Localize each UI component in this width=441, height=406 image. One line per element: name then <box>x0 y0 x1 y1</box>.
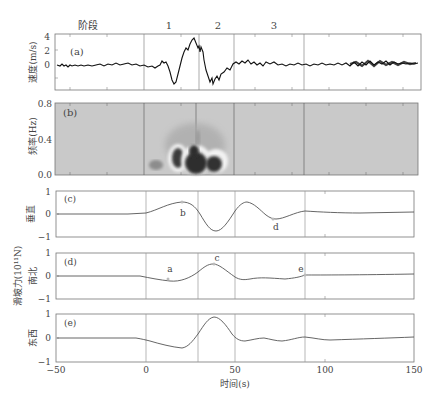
xtick-150: 150 <box>405 365 422 375</box>
panel-a-label: (a) <box>70 46 84 57</box>
ytick-b-04: 0.4 <box>38 135 53 145</box>
ylabel-b: 频率(Hz) <box>27 117 38 155</box>
ylabel-d: 南北 <box>27 267 38 285</box>
stage-1-label: 1 <box>166 20 172 31</box>
panel-b-spectrogram: (b) 0.8 0.4 0.0 频率(Hz) <box>27 99 418 180</box>
annotation-a: a <box>167 264 173 274</box>
marker-b <box>181 201 184 204</box>
ytick-a-2: 2 <box>44 46 50 56</box>
ytick-a-0: 0 <box>44 60 50 70</box>
panel-a-velocity: (a) 4 2 0 速度(m/s) <box>27 32 421 90</box>
stage-header-label: 阶段 <box>78 19 98 31</box>
xtick-50: 50 <box>229 365 241 375</box>
xlabel: 时间(s) <box>220 378 250 389</box>
ytick-d-0: 0 <box>45 271 51 281</box>
panel-d-label: (d) <box>64 257 77 267</box>
panel-b-label: (b) <box>63 107 77 118</box>
ytick-e-1: 1 <box>45 309 51 319</box>
ylabel-force: 滑坡力(10¹¹N) <box>12 246 23 307</box>
annotation-d: d <box>273 222 279 232</box>
ytick-c-1: 1 <box>45 187 51 197</box>
panel-e-label: (e) <box>64 318 76 328</box>
stage-3-label: 3 <box>271 20 277 31</box>
ytick-d-1: 1 <box>45 248 51 258</box>
marker-a <box>167 278 170 281</box>
ytick-b-00: 0.0 <box>38 170 53 180</box>
ylabel-a: 速度(m/s) <box>27 41 38 82</box>
annotation-e: e <box>298 264 303 274</box>
marker-d <box>272 218 275 221</box>
panel-d-north-south: a c e (d) 1 0 −1 南北 滑坡力(10¹¹N) <box>12 246 414 307</box>
ylabel-e: 东西 <box>27 329 38 347</box>
annotation-c: c <box>214 253 219 263</box>
figure: 阶段 1 2 3 (a) 4 2 0 速度(m/s) <box>0 0 441 406</box>
marker-e <box>304 274 307 277</box>
stage-2-label: 2 <box>215 20 221 31</box>
panel-c-label: (c) <box>64 194 76 204</box>
annotation-b: b <box>180 208 186 218</box>
ytick-b-08: 0.8 <box>38 99 53 109</box>
ytick-e-0: 0 <box>45 333 51 343</box>
panel-e-east-west: (e) 1 0 −1 东西 <box>27 309 414 367</box>
xtick-100: 100 <box>316 365 333 375</box>
ytick-c-0: 0 <box>45 209 51 219</box>
ylabel-c: 垂直 <box>25 205 36 223</box>
ytick-a-4: 4 <box>44 32 50 42</box>
ytick-c-m1: −1 <box>38 232 51 242</box>
xtick-m50: −50 <box>47 365 66 375</box>
stage-header: 阶段 1 2 3 <box>78 19 277 31</box>
panel-c-vertical: b d (c) 1 0 −1 垂直 <box>25 187 414 242</box>
ytick-d-m1: −1 <box>38 294 51 304</box>
panel-b-frame <box>55 103 418 175</box>
xtick-0: 0 <box>143 365 149 375</box>
x-axis: −50 0 50 100 150 时间(s) <box>47 365 423 389</box>
